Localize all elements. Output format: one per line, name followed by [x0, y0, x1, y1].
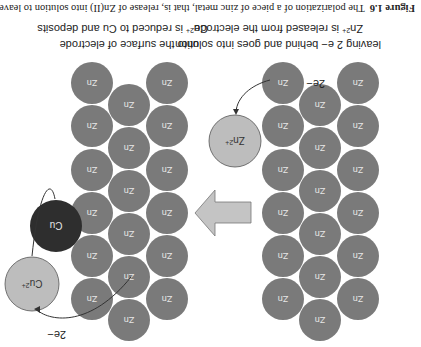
zn-atom-label: Zn	[124, 272, 135, 282]
zn-electrode-dissolving: ZnZnZnZnZnZnZnZnZnZnZnZnZnZnZnZnZnZn	[262, 62, 379, 341]
cu-reduce-label: Cu2+ is reduced to Cu and deposits onto …	[37, 23, 208, 51]
zn-atom-label: Zn	[278, 208, 289, 218]
zn-atom-label: Zn	[162, 78, 173, 88]
zn-atom-label: Zn	[353, 121, 364, 131]
zn-atom-label: Zn	[87, 294, 98, 304]
polarization-diagram: Figure 1.6The polarization of a piece of…	[0, 0, 421, 347]
zn-electrode-plating: ZnZnZnZnZnZnZnZnZnZnZnZnZnZnZnZnZnZn	[71, 62, 188, 341]
cu-deposit-atom: Cu	[30, 200, 82, 252]
zn-atom-label: Zn	[353, 78, 364, 88]
zn-label-line1: Zn2+ is released from the electrode	[194, 23, 363, 35]
zn-atom-label: Zn	[87, 121, 98, 131]
zn-atom-label: Zn	[278, 165, 289, 175]
zn-atom-label: Zn	[315, 100, 326, 110]
zn-atom-label: Zn	[124, 100, 135, 110]
zn-atom-label: Zn	[353, 251, 364, 261]
direction-arrow-icon	[195, 190, 251, 236]
zn-atom-label: Zn	[87, 208, 98, 218]
figure-caption: Figure 1.6The polarization of a piece of…	[0, 2, 415, 14]
zn-atom-label: Zn	[162, 208, 173, 218]
zn-atom-label: Zn	[315, 315, 326, 325]
zn-atom-label: Zn	[353, 294, 364, 304]
cu-label-line2: onto the surface of electrode	[60, 39, 199, 51]
arrowhead-icon	[233, 109, 239, 115]
zn-label-line2: leaving 2 e− behind and goes into soluti…	[175, 39, 381, 51]
cu-label-line1: Cu2+ is reduced to Cu and deposits	[37, 23, 208, 35]
electrons-label: 2e−	[306, 78, 325, 90]
zn-atom-label: Zn	[353, 208, 364, 218]
zn-atom-label: Zn	[87, 78, 98, 88]
zn-atom-label: Zn	[162, 121, 173, 131]
zn-ion: Zn2+	[209, 115, 261, 167]
cu-ion: Cu2+	[5, 257, 59, 311]
electrons-label-2: 2e−	[47, 329, 66, 341]
zn-atom-label: Zn	[278, 251, 289, 261]
zn-atom-label: Zn	[278, 294, 289, 304]
cu-atom-label: Cu	[50, 220, 63, 231]
zn-atom-label: Zn	[124, 143, 135, 153]
zn-atom-label: Zn	[87, 251, 98, 261]
figure-rotated: Figure 1.6The polarization of a piece of…	[0, 0, 421, 347]
zn-atom-label: Zn	[315, 272, 326, 282]
zn-atom-label: Zn	[124, 186, 135, 196]
zn-atom-label: Zn	[87, 165, 98, 175]
zn-atom-label: Zn	[315, 143, 326, 153]
zn-atom-label: Zn	[315, 229, 326, 239]
zn-atom-label: Zn	[315, 186, 326, 196]
zn-atom-label: Zn	[162, 251, 173, 261]
zn-atom-label: Zn	[162, 165, 173, 175]
zn-atom-label: Zn	[124, 229, 135, 239]
zn-atom-label: Zn	[278, 121, 289, 131]
zn-atom-label: Zn	[353, 165, 364, 175]
zn-atom-label: Zn	[162, 294, 173, 304]
zn-atom-label: Zn	[278, 78, 289, 88]
zn-atom-label: Zn	[124, 315, 135, 325]
